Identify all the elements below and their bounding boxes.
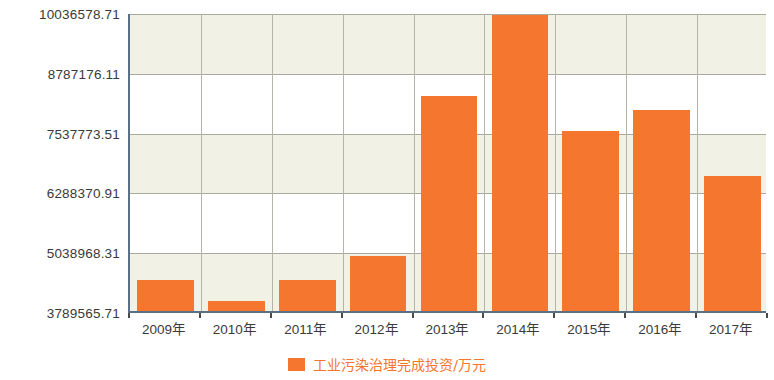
x-axis-tick-label: 2016年 xyxy=(624,318,695,338)
bar-series xyxy=(130,14,766,311)
chart-legend: 工业污染治理完成投资/万元 xyxy=(0,354,774,374)
x-axis-tick-label: 2012年 xyxy=(341,318,412,338)
bar xyxy=(633,110,690,311)
y-axis-tick-label: 7537773.51 xyxy=(47,126,120,141)
x-axis-tick-label: 2014年 xyxy=(482,318,553,338)
legend-label: 工业污染治理完成投资/万元 xyxy=(313,354,486,374)
bar xyxy=(562,131,619,311)
bar xyxy=(704,176,761,311)
x-axis-tick-label: 2010年 xyxy=(199,318,270,338)
y-axis-labels: 10036578.718787176.117537773.516288370.9… xyxy=(0,0,128,380)
bar xyxy=(492,15,549,311)
y-axis-tick-label: 8787176.11 xyxy=(48,66,120,81)
y-axis-tick-label: 6288370.91 xyxy=(47,186,120,201)
x-axis-tick-label: 2011年 xyxy=(270,318,341,338)
bar xyxy=(421,96,478,311)
x-axis-labels: 2009年2010年2011年2012年2013年2014年2015年2016年… xyxy=(128,318,766,344)
bar xyxy=(208,301,265,311)
plot-area xyxy=(128,14,766,313)
bar xyxy=(279,280,336,311)
x-axis-tick-label: 2017年 xyxy=(695,318,766,338)
x-axis-tick-label: 2013年 xyxy=(412,318,483,338)
x-axis-tick-label: 2015年 xyxy=(553,318,624,338)
y-axis-tick-label: 5038968.31 xyxy=(47,246,120,261)
legend-swatch-icon xyxy=(288,358,305,371)
bar-chart: 10036578.718787176.117537773.516288370.9… xyxy=(0,0,774,380)
bar xyxy=(350,256,407,311)
y-axis-tick-label: 10036578.71 xyxy=(39,7,120,22)
x-axis-tick xyxy=(766,313,768,318)
y-axis-tick-label: 3789565.71 xyxy=(47,306,120,321)
bar xyxy=(137,280,194,311)
x-axis-tick-label: 2009年 xyxy=(128,318,199,338)
